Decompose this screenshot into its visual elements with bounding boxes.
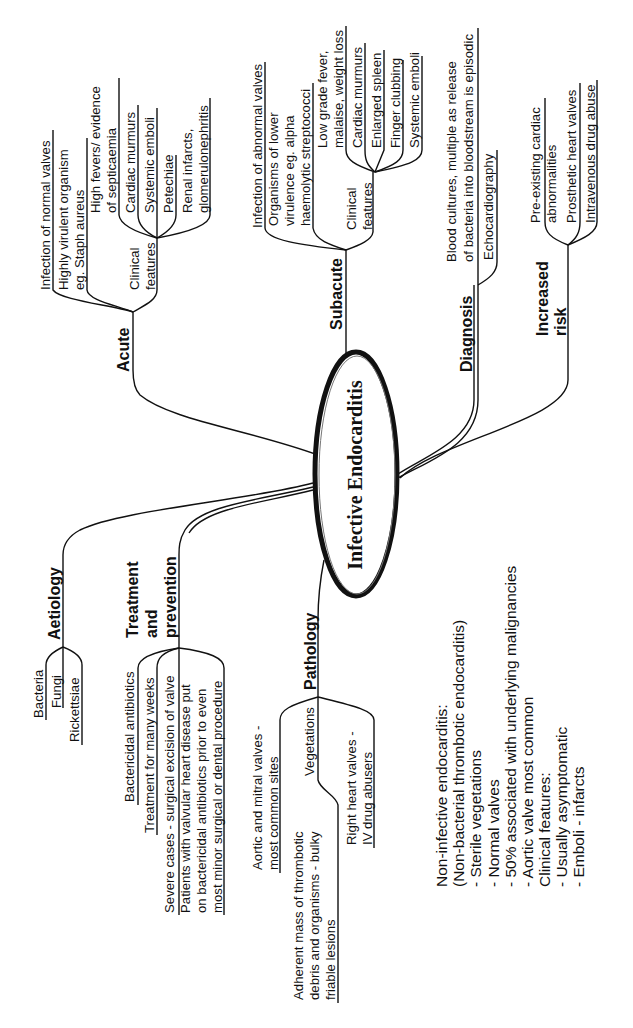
leaf-virulent-organism: eg. Staph aureus xyxy=(72,189,87,290)
leaf-virulent-organism: Highly virulent organism xyxy=(56,149,71,290)
branch-subacute: Subacute Infection of abnormal valves Or… xyxy=(250,30,422,330)
branch-label-subacute: Subacute xyxy=(328,258,345,330)
clinical-features-label: Clinical xyxy=(344,187,359,230)
leaf-infection-normal-valves: Infection of normal valves xyxy=(38,140,53,290)
leaf-vegetations: Vegetations xyxy=(302,707,317,776)
leaf-renal-infarcts: Renal infarcts, xyxy=(180,129,195,213)
branch-label-acute: Acute xyxy=(115,327,132,372)
branch-label-treatment: and xyxy=(143,610,160,638)
clinical-features-label: features xyxy=(143,242,158,290)
clinical-features-label: Clinical xyxy=(127,247,142,290)
leaf-blood-cultures: of bacteria into bloodstream is episodic xyxy=(461,34,476,262)
leaf-aortic-mitral: most common sites xyxy=(266,756,281,870)
note-line: Clinical features: xyxy=(536,772,553,887)
leaf-bacteria: Bacteria xyxy=(31,669,46,718)
note-line: - 50% associated with underlying maligna… xyxy=(502,565,519,887)
branch-diagnosis: Diagnosis Blood cultures, multiple as re… xyxy=(444,34,496,372)
branch-increased-risk: Increased risk Pre-existing cardiac abno… xyxy=(528,84,598,336)
leaf-right-heart-valves: Right heart valves - xyxy=(344,731,359,845)
leaf-blood-cultures: Blood cultures, multiple as release xyxy=(444,61,459,262)
leaf-adherent-mass: debris and organisms - bulky xyxy=(307,831,322,1000)
branch-acute: Acute Infection of normal valves Highly … xyxy=(38,86,211,372)
leaf-low-grade-fever: Low grade fever, xyxy=(315,50,330,148)
leaf-adherent-mass: friable lesions xyxy=(323,919,338,1000)
leaf-prophylaxis: most minor surgical or dental procedure xyxy=(210,681,225,913)
leaf-fungi: Fungi xyxy=(49,675,64,708)
leaf-pre-existing-cardiac: abnormalities xyxy=(544,144,559,223)
note-line: - Normal valves xyxy=(485,779,502,887)
note-line: - Aortic valve most common xyxy=(519,697,536,887)
branch-label-treatment: prevention xyxy=(162,556,179,638)
branch-label-pathology: Pathology xyxy=(302,613,319,690)
clinical-features-label: features xyxy=(360,182,375,230)
branch-label-treatment: Treatment xyxy=(124,561,141,638)
leaf-high-fevers: of septicaemia xyxy=(104,127,119,213)
leaf-right-heart-valves: IV drug abusers xyxy=(360,751,375,845)
branch-label-increased-risk: Increased xyxy=(534,261,551,336)
leaf-renal-infarcts: glomerulonephritis xyxy=(196,105,211,213)
leaf-systemic-emboli: Systemic emboli xyxy=(142,117,157,213)
leaf-iv-drug-abuse: Intravenous drug abuse xyxy=(583,84,598,223)
central-node: Infective Endocarditis xyxy=(315,352,397,596)
leaf-low-grade-fever: malaise, weight loss xyxy=(331,30,346,148)
leaf-systemic-emboli: Systemic emboli xyxy=(407,52,422,148)
leaf-adherent-mass: Adherent mass of thrombotic xyxy=(291,831,306,1000)
leaf-cardiac-murmurs: Cardiac murmurs xyxy=(350,46,365,148)
branch-label-diagnosis: Diagnosis xyxy=(458,295,475,372)
note-non-infective: Non-infective endocarditis: (Non-bacteri… xyxy=(433,565,587,887)
note-line: - Sterile vegetations xyxy=(467,750,484,887)
leaf-prophylaxis: Patients with valvular heart disease put xyxy=(178,684,193,913)
leaf-high-fevers: High fevers/ evidence xyxy=(88,86,103,213)
leaf-infection-abnormal-valves: Infection of abnormal valves xyxy=(250,63,265,228)
central-title: Infective Endocarditis xyxy=(344,380,366,570)
leaf-finger-clubbing: Finger clubbing xyxy=(388,58,403,148)
leaf-echocardiography: Echocardiography xyxy=(481,153,496,260)
branch-pathology: Pathology Aortic and mitral valves - mos… xyxy=(250,613,375,1000)
leaf-cardiac-murmurs: Cardiac murmurs xyxy=(123,111,138,213)
note-line: Non-infective endocarditis: xyxy=(433,704,450,887)
leaf-prophylaxis: on bactericidal antibiotics prior to eve… xyxy=(194,689,209,913)
leaf-bactericidal-antibiotics: Bactericidal antibiotics xyxy=(122,671,137,802)
leaf-aortic-mitral: Aortic and mitral valves - xyxy=(250,726,265,870)
branch-label-aetiology: Aetiology xyxy=(46,567,63,640)
leaf-pre-existing-cardiac: Pre-existing cardiac xyxy=(528,107,543,223)
leaf-prosthetic-valves: Prosthetic heart valves xyxy=(564,89,579,223)
leaf-lower-virulence: virulence eg. alpha xyxy=(282,115,297,226)
branch-aetiology: Aetiology Bacteria Fungi Rickettsiae xyxy=(31,567,82,742)
note-line: - Usually asymptomatic xyxy=(553,727,570,887)
leaf-treatment-weeks: Treatment for many weeks xyxy=(142,677,157,833)
leaf-severe-cases: Severe cases - surgical excision of valv… xyxy=(162,676,177,913)
leaf-rickettsiae: Rickettsiae xyxy=(67,678,82,743)
note-line: (Non-bacterial thrombotic endocarditis) xyxy=(450,620,467,887)
leaf-lower-virulence: haemolytic streptococci xyxy=(298,89,313,226)
mind-map: Infective Endocarditis Acute Infection o… xyxy=(0,0,633,1028)
leaf-enlarged-spleen: Enlarged spleen xyxy=(369,53,384,148)
branch-label-increased-risk: risk xyxy=(552,307,569,336)
leaf-petechiae: Petechiae xyxy=(161,154,176,213)
note-line: - Emboli - infarcts xyxy=(570,766,587,887)
leaf-lower-virulence: Organisms of lower xyxy=(266,112,281,226)
